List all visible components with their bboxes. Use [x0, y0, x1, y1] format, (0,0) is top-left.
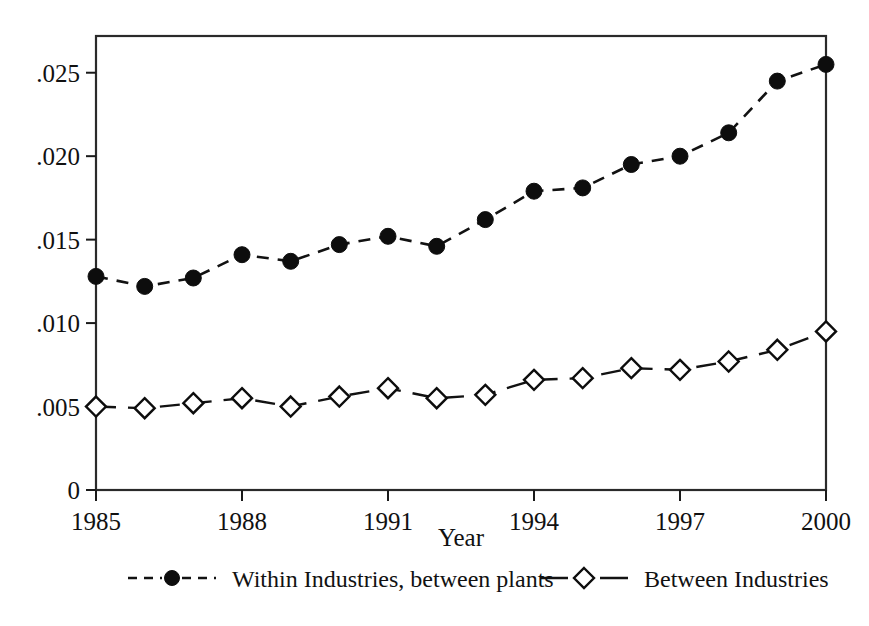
series-line-1 [96, 64, 826, 286]
data-point-marker-open [670, 360, 690, 380]
y-tick-label: .010 [36, 310, 80, 337]
data-point-marker-open [135, 398, 155, 418]
data-point-marker-open [475, 385, 495, 405]
x-tick-label: 1991 [363, 508, 413, 535]
series-layer [86, 56, 836, 418]
x-tick-label: 2000 [801, 508, 851, 535]
data-point-marker-open [232, 388, 252, 408]
data-point-marker-filled [623, 157, 639, 173]
data-point-marker-filled [185, 270, 201, 286]
y-tick-label: .015 [36, 227, 80, 254]
legend-marker-filled-circle [165, 571, 180, 586]
legend-label-2: Between Industries [644, 566, 829, 592]
data-point-marker-open [573, 368, 593, 388]
data-point-marker-open [183, 393, 203, 413]
x-axis-title: Year [438, 524, 485, 551]
data-point-marker-open [767, 340, 787, 360]
data-point-marker-filled [672, 148, 688, 164]
series-line-2 [96, 331, 826, 408]
x-tick-label: 1988 [217, 508, 267, 535]
legend-label-1: Within Industries, between plants [232, 566, 554, 592]
data-point-marker-open [281, 397, 301, 417]
plot-frame [96, 36, 826, 490]
data-point-marker-filled [380, 228, 396, 244]
data-point-marker-open [719, 351, 739, 371]
data-point-marker-filled [283, 253, 299, 269]
data-point-marker-filled [137, 278, 153, 294]
data-point-marker-open [524, 370, 544, 390]
chart-figure: 0.005.010.015.020.025 198519881991199419… [0, 0, 869, 626]
data-point-marker-filled [88, 268, 104, 284]
data-point-marker-open [621, 358, 641, 378]
data-point-marker-open [427, 388, 447, 408]
data-point-marker-open [378, 378, 398, 398]
y-tick-label: .025 [36, 60, 80, 87]
data-point-marker-filled [721, 125, 737, 141]
y-tick-label: .020 [36, 143, 80, 170]
y-axis-ticks: 0.005.010.015.020.025 [36, 60, 96, 504]
x-tick-label: 1985 [71, 508, 121, 535]
data-point-marker-open [329, 387, 349, 407]
data-point-marker-open [816, 321, 836, 341]
data-point-marker-filled [769, 73, 785, 89]
data-point-marker-filled [477, 212, 493, 228]
x-tick-label: 1994 [509, 508, 560, 535]
x-tick-label: 1997 [655, 508, 705, 535]
data-point-marker-filled [429, 238, 445, 254]
y-tick-label: .005 [36, 394, 80, 421]
data-point-marker-filled [234, 247, 250, 263]
data-point-marker-open [86, 397, 106, 417]
data-point-marker-filled [526, 183, 542, 199]
data-point-marker-filled [575, 180, 591, 196]
chart-legend: Within Industries, between plantsBetween… [128, 566, 829, 592]
legend-marker-open-diamond [574, 568, 594, 588]
data-point-marker-filled [331, 237, 347, 253]
y-tick-label: 0 [68, 477, 81, 504]
line-chart: 0.005.010.015.020.025 198519881991199419… [0, 0, 869, 626]
data-point-marker-filled [818, 56, 834, 72]
